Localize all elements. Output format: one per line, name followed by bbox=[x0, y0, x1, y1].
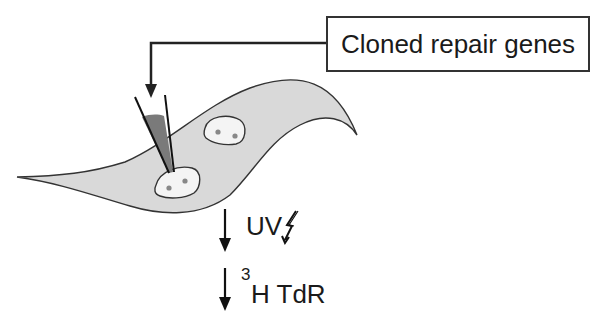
thymidine-label: H TdR bbox=[251, 281, 326, 307]
uv-label: UV bbox=[246, 213, 282, 239]
lightning-bolt-icon bbox=[282, 211, 298, 243]
step-arrow-uv bbox=[219, 209, 231, 252]
cloned-repair-genes-box: Cloned repair genes bbox=[326, 16, 590, 72]
arrowhead-icon bbox=[145, 84, 157, 98]
down-arrow-icon bbox=[219, 238, 231, 252]
chromatin-dot bbox=[215, 129, 220, 134]
tritium-superscript: 3 bbox=[241, 266, 250, 283]
step-arrow-tdr bbox=[219, 268, 231, 311]
chromatin-dot bbox=[166, 185, 171, 190]
down-arrow-icon bbox=[219, 297, 231, 311]
chromatin-dot bbox=[182, 178, 187, 183]
nucleus-uninjected bbox=[204, 116, 245, 144]
chromatin-dot bbox=[232, 133, 237, 138]
cloned-repair-genes-label: Cloned repair genes bbox=[341, 29, 575, 60]
diagram-canvas: Cloned repair genes UV 3 H TdR bbox=[0, 0, 602, 322]
